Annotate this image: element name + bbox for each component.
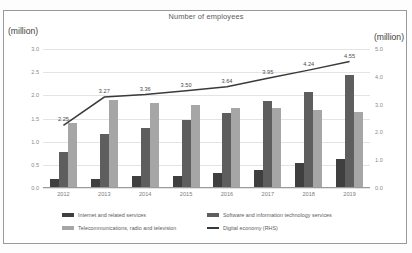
right-axis-tick-label: 5.0 [375, 46, 383, 52]
right-axis-tick-label: 4.0 [375, 74, 383, 80]
line-point-label: 3.36 [140, 86, 151, 92]
legend-label: Software and information technology serv… [223, 212, 332, 218]
x-axis-tick-label: 2016 [207, 191, 248, 197]
legend-label: Telecommunications, radio and television [78, 225, 176, 231]
left-axis-tick-label: 3.0 [31, 46, 39, 52]
gridline [43, 188, 370, 189]
x-axis-tick-label: 2017 [247, 191, 288, 197]
x-axis-tick-label: 2014 [125, 191, 166, 197]
left-axis-tick-label: 0.0 [31, 185, 39, 191]
line-point-label: 3.64 [221, 78, 232, 84]
right-axis-tick-label: 3.0 [375, 102, 383, 108]
x-axis-tick-label: 2013 [84, 191, 125, 197]
right-axis-tick-label: 1.0 [375, 157, 383, 163]
chart-legend: Internet and related servicesSoftware an… [62, 212, 362, 231]
left-axis-unit-label: (million) [8, 26, 38, 36]
left-axis-tick-label: 0.5 [31, 162, 39, 168]
x-axis-tick-label: 2015 [166, 191, 207, 197]
legend-label: Digital economy (RHS) [223, 225, 278, 231]
legend-color-swatch [62, 213, 74, 217]
plot-area: 3.02.52.01.51.00.50.0 5.04.03.02.01.00.0… [43, 49, 370, 188]
chart-title: Number of employees [0, 12, 412, 21]
line-point-label: 3.95 [262, 69, 273, 75]
right-axis-tick-label: 2.0 [375, 129, 383, 135]
right-axis-tick-label: 0.0 [375, 185, 383, 191]
line-series-digital-economy [43, 49, 370, 188]
legend-line-swatch [207, 227, 219, 229]
line-point-label: 3.50 [181, 82, 192, 88]
legend-label: Internet and related services [78, 212, 146, 218]
line-point-label: 2.25 [58, 116, 69, 122]
legend-color-swatch [207, 213, 219, 217]
x-axis-tick-label: 2018 [288, 191, 329, 197]
x-axis-tick-label: 2012 [43, 191, 84, 197]
x-axis [43, 187, 370, 188]
left-axis-tick-label: 1.5 [31, 116, 39, 122]
line-point-label: 4.24 [303, 61, 314, 67]
left-axis-tick-label: 2.0 [31, 92, 39, 98]
right-axis-unit-label: (million) [374, 32, 404, 42]
legend-item: Software and information technology serv… [207, 212, 362, 218]
line-point-label: 3.27 [99, 88, 110, 94]
chart-figure: Number of employees (million) (million) … [0, 0, 412, 253]
legend-item: Telecommunications, radio and television [62, 225, 207, 231]
legend-color-swatch [62, 226, 74, 230]
x-axis-tick-label: 2019 [329, 191, 370, 197]
legend-item: Digital economy (RHS) [207, 225, 362, 231]
left-axis-tick-label: 1.0 [31, 139, 39, 145]
left-axis-tick-label: 2.5 [31, 69, 39, 75]
legend-item: Internet and related services [62, 212, 207, 218]
line-point-label: 4.55 [344, 53, 355, 59]
